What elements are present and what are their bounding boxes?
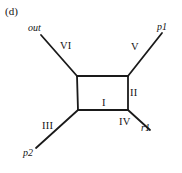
leg-label-p1: p1 <box>157 22 167 32</box>
edge-label-v: V <box>131 42 139 53</box>
figure-panel: (d) out VI p1 V r1 IV p2 III I II <box>0 0 182 173</box>
edge-label-iv: IV <box>119 117 130 128</box>
leg-out-line <box>41 35 77 76</box>
edge-label-i: I <box>102 98 106 109</box>
edge-label-iii: III <box>42 121 53 132</box>
edge-label-vi: VI <box>60 41 71 52</box>
leg-label-out: out <box>28 23 41 33</box>
panel-tag: (d) <box>5 6 18 17</box>
leg-label-r1: r1 <box>141 123 150 133</box>
leg-p1-line <box>128 33 162 76</box>
square-edge-left <box>77 76 78 110</box>
edge-label-ii: II <box>130 88 137 99</box>
leg-label-p2: p2 <box>23 148 33 158</box>
